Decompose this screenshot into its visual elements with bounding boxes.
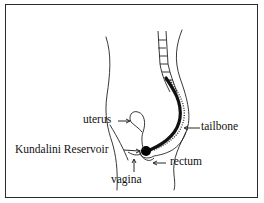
label-kundalini-reservoir: Kundalini Reservoir — [15, 144, 109, 156]
uterus-inner-line — [131, 122, 142, 132]
kundalini-reservoir-dot — [141, 146, 151, 156]
label-vagina: vagina — [111, 174, 142, 186]
label-uterus: uterus — [83, 114, 111, 126]
inner-thigh-line — [110, 125, 128, 160]
tailbone-shaded — [141, 78, 184, 156]
label-tailbone: tailbone — [201, 121, 238, 133]
label-rectum: rectum — [170, 156, 202, 168]
uterus-outline — [130, 112, 145, 150]
